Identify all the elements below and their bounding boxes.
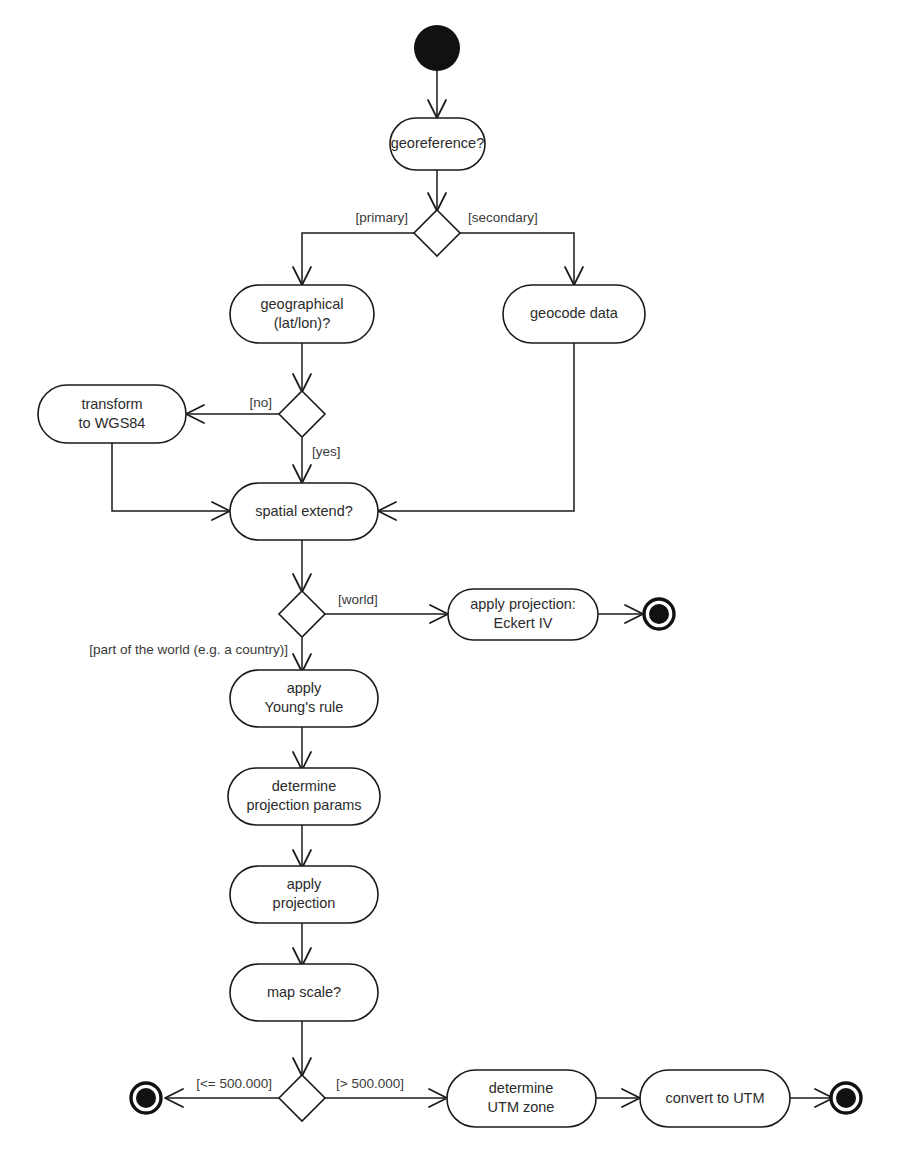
node-map-scale[interactable]: map scale? — [230, 964, 378, 1021]
guard-label-secondary: [secondary] — [468, 210, 538, 225]
node-apply-youngs-rule[interactable]: apply Young's rule — [230, 670, 378, 727]
initial-node — [414, 25, 460, 71]
node-determine-projection-params[interactable]: determine projection params — [228, 768, 380, 825]
node-transform-wgs84-label-line2: to WGS84 — [79, 415, 146, 431]
node-determine-utm-zone-label-line2: UTM zone — [488, 1099, 555, 1115]
edge-decision1-to-geocode — [460, 233, 574, 283]
decision-geographical[interactable] — [279, 391, 325, 437]
node-apply-projection-label-line1: apply — [287, 876, 322, 892]
node-geographical[interactable]: geographical (lat/lon)? — [230, 285, 374, 343]
edge-decision1-to-geographical — [302, 233, 414, 283]
node-geocode-data[interactable]: geocode data — [503, 285, 645, 343]
node-apply-projection[interactable]: apply projection — [230, 866, 378, 923]
final-node-utm — [831, 1083, 861, 1113]
node-apply-projection-label-line2: projection — [273, 895, 336, 911]
node-apply-youngs-rule-label-line2: Young's rule — [265, 699, 344, 715]
node-layer: georeference? geographical (lat/lon)? ge… — [38, 25, 861, 1127]
final-node-small-scale — [131, 1083, 161, 1113]
node-georeference[interactable]: georeference? — [390, 118, 485, 170]
node-apply-projection-eckert-label-line1: apply projection: — [470, 596, 576, 612]
edge-geocode-to-spatial-extend — [380, 343, 574, 511]
node-determine-projection-params-label-line1: determine — [272, 778, 336, 794]
final-node-eckert — [644, 599, 674, 629]
node-transform-wgs84[interactable]: transform to WGS84 — [38, 385, 186, 443]
guard-label-primary: [primary] — [355, 210, 408, 225]
node-convert-to-utm[interactable]: convert to UTM — [640, 1070, 790, 1127]
node-geocode-data-label: geocode data — [530, 305, 619, 321]
node-geographical-label-line1: geographical — [260, 296, 343, 312]
guard-label-yes: [yes] — [312, 444, 341, 459]
node-determine-utm-zone[interactable]: determine UTM zone — [447, 1070, 596, 1127]
node-geographical-label-line2: (lat/lon)? — [274, 315, 330, 331]
node-apply-projection-eckert-label-line2: Eckert IV — [494, 615, 553, 631]
node-spatial-extend[interactable]: spatial extend? — [230, 483, 378, 540]
node-apply-projection-eckert[interactable]: apply projection: Eckert IV — [448, 589, 598, 640]
decision-map-scale[interactable] — [279, 1075, 325, 1121]
uml-activity-diagram: georeference? geographical (lat/lon)? ge… — [0, 0, 900, 1161]
node-transform-wgs84-label-line1: transform — [81, 396, 142, 412]
guard-label-world: [world] — [338, 592, 378, 607]
node-spatial-extend-label: spatial extend? — [255, 503, 353, 519]
node-apply-youngs-rule-label-line1: apply — [287, 680, 322, 696]
guard-label-scale-small: [<= 500.000] — [196, 1076, 272, 1091]
node-map-scale-label: map scale? — [267, 984, 341, 1000]
guard-label-no: [no] — [249, 395, 272, 410]
decision-georeference[interactable] — [414, 210, 460, 256]
guard-label-scale-large: [> 500.000] — [336, 1076, 404, 1091]
decision-spatial-extend[interactable] — [279, 591, 325, 637]
activity-diagram-canvas: georeference? geographical (lat/lon)? ge… — [0, 0, 900, 1161]
node-georeference-label: georeference? — [391, 135, 485, 151]
edge-transform-to-spatial-extend — [112, 443, 228, 511]
node-convert-to-utm-label: convert to UTM — [665, 1090, 764, 1106]
node-determine-projection-params-label-line2: projection params — [246, 797, 361, 813]
node-determine-utm-zone-label-line1: determine — [489, 1080, 553, 1096]
guard-label-part-of-world: [part of the world (e.g. a country)] — [89, 642, 288, 657]
